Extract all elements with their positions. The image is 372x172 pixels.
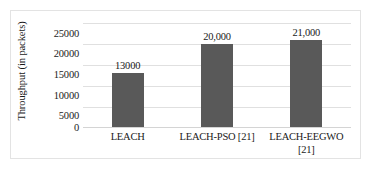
bar-group-leach-eegwo: 21,000	[262, 22, 351, 127]
x-label-line: LEACH-EEGWO	[262, 131, 351, 144]
bar-leach-pso[interactable]	[201, 44, 233, 127]
bar-value-label: 20,000	[203, 31, 231, 42]
bar-value-label: 13000	[115, 60, 140, 71]
x-label-leach-pso: LEACH-PSO [21]	[172, 131, 261, 161]
plot-area: 13000 20,000 21,000	[83, 23, 351, 128]
x-label-line: LEACH	[83, 131, 172, 144]
chart-figure: Throughput (in packets) 25000 20000 1500…	[10, 10, 361, 159]
y-tick-label: 25000	[35, 29, 79, 39]
bar-leach-eegwo[interactable]	[290, 40, 322, 127]
y-tick-label: 15000	[35, 70, 79, 80]
bar-group-leach-pso: 20,000	[172, 22, 261, 127]
x-axis-category-labels: LEACH LEACH-PSO [21] LEACH-EEGWO [21]	[83, 131, 351, 161]
x-label-line: LEACH-PSO [21]	[172, 131, 261, 144]
bar-value-label: 21,000	[292, 27, 320, 38]
x-label-line: [21]	[262, 144, 351, 157]
x-axis-line	[83, 127, 351, 128]
y-tick-label: 20000	[35, 49, 79, 59]
y-tick-label: 0	[35, 123, 79, 133]
y-axis-tick-labels: 25000 20000 15000 10000 5000 0	[29, 11, 79, 160]
x-label-leach-eegwo: LEACH-EEGWO [21]	[262, 131, 351, 161]
y-tick-label: 5000	[35, 111, 79, 121]
bar-leach[interactable]	[112, 73, 144, 127]
y-tick-label: 10000	[35, 91, 79, 101]
bar-group-leach: 13000	[83, 22, 172, 127]
x-label-leach: LEACH	[83, 131, 172, 161]
y-axis-title: Throughput (in packets)	[15, 11, 29, 131]
